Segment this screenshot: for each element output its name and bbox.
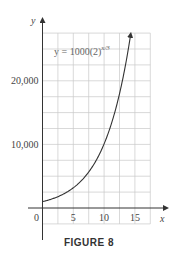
grid-lines [43,33,151,224]
exponential-curve [43,35,131,202]
figure-caption: FIGURE 8 [0,237,178,248]
x-tick-label: 15 [130,212,140,223]
y-tick-label: 10,000 [11,139,39,150]
equation-label: y = 1000(2)x/3 [54,44,110,58]
y-axis-label: y [30,15,36,26]
exponential-growth-chart: 05101510,00020,000 y = 1000(2)x/3 y x [0,0,178,256]
x-tick-label: 10 [99,212,109,223]
x-tick-label: 5 [71,212,76,223]
x-tick-label: 0 [34,212,39,223]
tick-labels: 05101510,00020,000 [11,75,140,223]
y-tick-label: 20,000 [11,75,39,86]
x-axis-label: x [159,213,165,224]
